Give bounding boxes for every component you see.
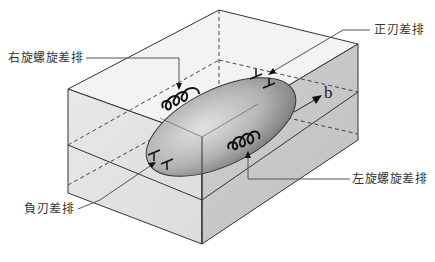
- label-positive-edge-dislocation: 正刃差排: [374, 23, 424, 37]
- label-burgers-vector: b: [324, 83, 333, 103]
- label-left-screw-dislocation: 左旋螺旋差排: [352, 172, 427, 186]
- crystal-block-diagram: [0, 0, 435, 262]
- label-right-screw-dislocation: 右旋螺旋差排: [8, 51, 83, 65]
- label-negative-edge-dislocation: 負刃差排: [24, 202, 74, 216]
